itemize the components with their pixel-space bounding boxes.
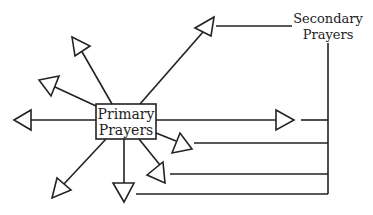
arrow-head-icon: [195, 17, 214, 36]
arrow-up-left: [72, 37, 112, 104]
arrow-right-down: [156, 133, 192, 153]
arrow-head-icon: [276, 110, 294, 130]
arrow-down-left: [52, 139, 106, 198]
arrow-right: [156, 110, 294, 130]
arrow-head-icon: [39, 76, 59, 96]
arrow-head-icon: [172, 133, 192, 153]
arrow-down-right: [139, 139, 165, 183]
secondary-label-line1: Secondary: [293, 11, 363, 26]
arrow-head-icon: [72, 37, 90, 56]
arrow-head-icon: [113, 183, 134, 202]
arrow-up-right: [140, 17, 214, 104]
prayer-diagram: Primary Prayers Secondary Prayers: [0, 0, 373, 215]
arrow-left: [14, 110, 96, 130]
secondary-label-line2: Prayers: [303, 27, 354, 42]
primary-label-line1: Primary: [98, 106, 155, 122]
arrow-head-icon: [52, 178, 71, 198]
primary-label-line2: Prayers: [99, 122, 154, 138]
arrow-head-icon: [14, 110, 31, 130]
arrow-down: [113, 139, 134, 202]
arrow-left-up: [39, 76, 96, 106]
secondary-connectors: [136, 26, 328, 194]
arrow-head-icon: [147, 162, 165, 183]
